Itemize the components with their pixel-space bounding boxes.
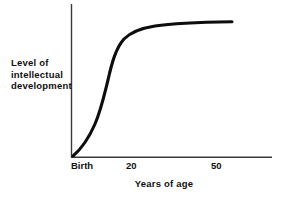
x-tick-label-50: 50 [211,160,222,171]
y-axis-label: Level of intellectual development [11,57,69,92]
chart-canvas [0,0,284,197]
x-axis-caption-text: Years of age [135,178,193,189]
y-axis-label-line-3: development [11,80,69,92]
y-axis-label-line-2: intellectual [11,69,69,81]
y-axis-label-line-1: Level of [11,57,69,69]
sigmoid-growth-curve [73,22,232,156]
intellectual-development-growth-curve-figure: Level of intellectual development Birth … [0,0,284,197]
x-tick-label-birth: Birth [71,160,93,171]
x-tick-label-20: 20 [126,160,137,171]
x-axis-caption: Years of age [0,178,284,189]
